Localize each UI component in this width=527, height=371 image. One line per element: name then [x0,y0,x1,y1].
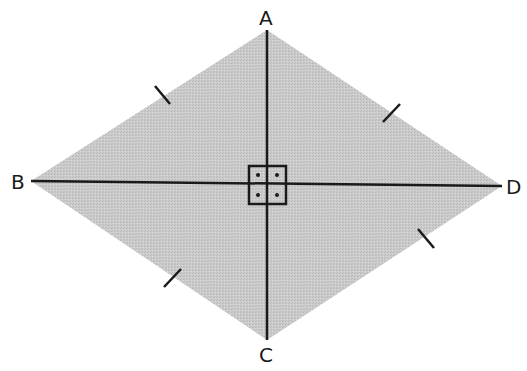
rhombus-diagram: A B C D [0,0,527,371]
rhombus-figure [0,0,527,371]
angle-dot-bottom-left [256,193,260,197]
vertex-label-a: A [259,8,273,28]
angle-dot-top-right [275,173,279,177]
angle-dot-bottom-right [275,193,279,197]
vertex-label-c: C [259,345,273,365]
vertex-label-d: D [506,177,521,197]
angle-dot-top-left [256,173,260,177]
vertex-label-b: B [11,172,25,192]
